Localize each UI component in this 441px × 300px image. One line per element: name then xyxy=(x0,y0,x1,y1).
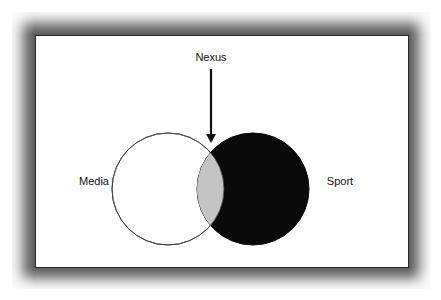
sport-label: Sport xyxy=(327,175,353,187)
media-label: Media xyxy=(79,175,110,187)
nexus-label: Nexus xyxy=(195,51,227,63)
nexus-arrowhead-icon xyxy=(206,134,216,143)
venn-diagram: Nexus Media Sport xyxy=(0,0,441,300)
